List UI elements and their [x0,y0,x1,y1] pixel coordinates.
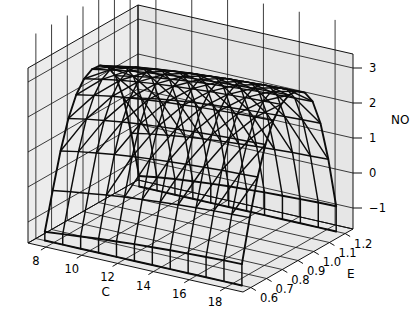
x-tick-label: 16 [172,287,187,301]
x-tick-label: 14 [136,279,151,293]
plot-root: 3210−1NO81012141618C0.60.70.80.91.01.11.… [0,0,414,336]
surface-plot-svg: 3210−1NO81012141618C0.60.70.80.91.01.11.… [0,0,414,336]
y-axis-title: E [347,267,355,281]
z-tick-label: 3 [369,61,376,75]
x-tick-label: 18 [208,295,223,309]
y-tick-label: 1.2 [354,237,372,251]
z-tick-label: 0 [369,166,376,180]
z-tick-label: 2 [369,96,376,110]
z-axis-title: NO [391,113,409,127]
x-tick-label: 10 [64,262,79,276]
z-tick-label: −1 [369,201,386,215]
x-tick-label: 12 [100,270,115,284]
z-tick-label: 1 [369,131,376,145]
x-tick-label: 8 [32,254,39,268]
x-axis-title: C [101,285,109,299]
